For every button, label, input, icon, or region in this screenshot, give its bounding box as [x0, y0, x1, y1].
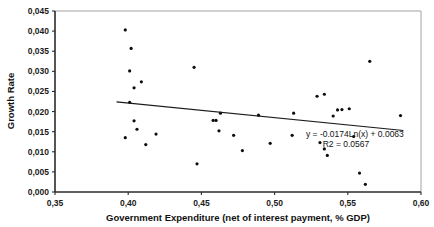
y-axis-title: Growth Rate — [5, 73, 16, 129]
data-point — [315, 95, 318, 98]
data-point — [130, 47, 133, 50]
chart-container: 0,0000,0050,0100,0150,0200,0250,0300,035… — [0, 0, 434, 227]
y-tick-label: 0,005 — [28, 167, 50, 177]
data-point — [332, 114, 335, 117]
data-point — [195, 162, 198, 165]
scatter-plot-svg: 0,0000,0050,0100,0150,0200,0250,0300,035… — [0, 0, 434, 227]
data-point — [124, 28, 127, 31]
data-point — [358, 171, 361, 174]
data-point — [154, 132, 157, 135]
x-tick-label: 0,45 — [193, 198, 210, 208]
data-point — [292, 112, 295, 115]
y-tick-label: 0,025 — [28, 86, 50, 96]
data-point — [364, 183, 367, 186]
data-point — [323, 93, 326, 96]
trendline-rsquared-label: R2 = 0.0567 — [323, 139, 370, 149]
y-tick-label: 0,040 — [28, 26, 50, 36]
x-tick-label: 0,60 — [413, 198, 430, 208]
y-tick-label: 0,015 — [28, 127, 50, 137]
data-point — [124, 136, 127, 139]
x-axis-title: Government Expenditure (net of interest … — [106, 212, 370, 223]
data-point — [326, 154, 329, 157]
y-tick-label: 0,035 — [28, 46, 50, 56]
data-point — [336, 108, 339, 111]
y-tick-label: 0,020 — [28, 107, 50, 117]
trendline-equation-label: y = -0.0174Ln(x) + 0.0063 — [306, 129, 404, 139]
data-point — [399, 114, 402, 117]
data-point — [135, 128, 138, 131]
x-tick-label: 0,50 — [266, 198, 283, 208]
data-point — [217, 129, 220, 132]
y-tick-label: 0,000 — [28, 187, 50, 197]
data-point — [348, 107, 351, 110]
y-tick-label: 0,030 — [28, 66, 50, 76]
data-point — [291, 134, 294, 137]
data-point — [318, 141, 321, 144]
data-point — [128, 69, 131, 72]
data-point — [132, 119, 135, 122]
data-point — [212, 119, 215, 122]
data-point — [340, 108, 343, 111]
data-point — [368, 60, 371, 63]
chart-background — [0, 0, 434, 227]
data-point — [140, 80, 143, 83]
x-tick-label: 0,40 — [120, 198, 137, 208]
y-tick-label: 0,010 — [28, 147, 50, 157]
data-point — [132, 86, 135, 89]
x-tick-label: 0,35 — [47, 198, 64, 208]
y-tick-label: 0,045 — [28, 6, 50, 16]
data-point — [232, 134, 235, 137]
data-point — [144, 143, 147, 146]
x-tick-label: 0,55 — [340, 198, 357, 208]
data-point — [269, 142, 272, 145]
data-point — [214, 119, 217, 122]
data-point — [241, 149, 244, 152]
data-point — [192, 66, 195, 69]
